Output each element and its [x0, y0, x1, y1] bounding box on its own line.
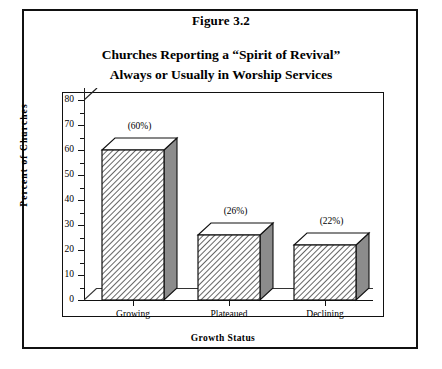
y-tick-label: 20	[44, 244, 74, 254]
y-tick-major	[78, 100, 84, 101]
y-axis-top-riser	[84, 88, 97, 100]
y-tick-label: 70	[44, 119, 74, 129]
bar-declining	[294, 233, 371, 302]
y-tick-label: 60	[44, 144, 74, 154]
y-tick-major	[78, 150, 84, 151]
y-tick-major	[78, 300, 84, 301]
y-tick-major	[78, 125, 84, 126]
floor-depth-connector	[84, 288, 97, 300]
x-axis-title: Growth Status	[62, 333, 384, 343]
bar-value-label: (22%)	[277, 216, 387, 226]
y-tick-minor	[80, 188, 84, 189]
figure-root: Figure 3.2 Churches Reporting a “Spirit …	[0, 0, 442, 369]
x-tick	[133, 300, 134, 306]
chart-title-line-1: Churches Reporting a “Spirit of Revival”	[0, 45, 442, 65]
bar-value-label: (26%)	[181, 206, 291, 216]
y-tick-label: 50	[44, 169, 74, 179]
y-tick-minor	[80, 263, 84, 264]
y-tick-label: 0	[44, 294, 74, 304]
y-tick-label: 30	[44, 219, 74, 229]
chart-title: Churches Reporting a “Spirit of Revival”…	[0, 45, 442, 85]
y-tick-minor	[80, 288, 84, 289]
bar-growing	[102, 138, 179, 302]
y-tick-label: 10	[44, 269, 74, 279]
bar-plateaued	[198, 223, 275, 302]
bar-value-label: (60%)	[85, 121, 195, 131]
x-tick	[229, 300, 230, 306]
y-tick-label: 80	[44, 94, 74, 104]
y-axis-back-edge	[84, 88, 85, 288]
y-tick-minor	[80, 163, 84, 164]
y-tick-major	[78, 275, 84, 276]
y-axis-title: Percent of Churches	[19, 75, 29, 235]
y-tick-minor	[80, 138, 84, 139]
y-tick-minor	[80, 213, 84, 214]
y-tick-major	[78, 225, 84, 226]
y-tick-minor	[80, 238, 84, 239]
y-tick-major	[78, 175, 84, 176]
chart-title-line-2: Always or Usually in Worship Services	[0, 65, 442, 85]
figure-number: Figure 3.2	[0, 13, 442, 29]
y-tick-major	[78, 200, 84, 201]
y-tick-major	[78, 250, 84, 251]
y-tick-minor	[80, 113, 84, 114]
y-tick-label: 40	[44, 194, 74, 204]
x-tick-label: Growing	[78, 309, 188, 319]
x-tick-label: Declining	[270, 309, 380, 319]
x-tick-label: Plateaued	[174, 309, 284, 319]
x-tick	[325, 300, 326, 306]
